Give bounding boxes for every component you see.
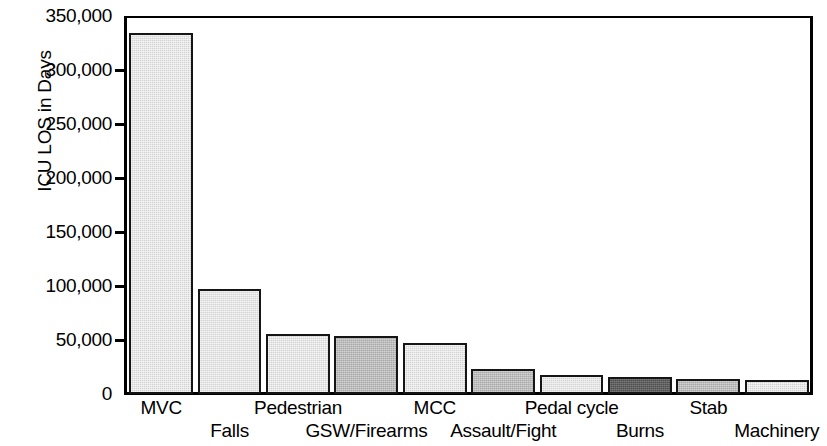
x-axis-tick-label-machinery: Machinery [667,421,827,441]
x-axis-tick-labels: MVCFallsPedestrianGSW/FirearmsMCCAssault… [0,0,827,446]
x-axis-tick-label-stab: Stab [598,398,818,418]
bar-chart-figure: ICU LOS in Days 350,000300,000250,000200… [0,0,827,446]
